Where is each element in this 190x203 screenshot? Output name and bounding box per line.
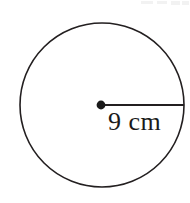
circle-diagram-svg	[0, 0, 190, 203]
circle-figure: 9 cm	[0, 0, 190, 203]
center-point-dot	[97, 101, 106, 110]
radius-label: 9 cm	[108, 108, 161, 136]
